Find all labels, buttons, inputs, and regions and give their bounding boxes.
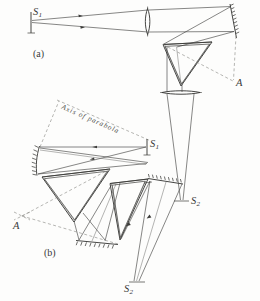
panel-a-source-label: S1 <box>33 7 42 19</box>
panel-b-folding-mirror <box>76 241 118 249</box>
panel-a-focus-label: S2 <box>191 196 200 208</box>
panel-a-camera-lens <box>160 91 202 94</box>
panel-a-converging-cone <box>167 94 194 201</box>
panel-b-focus-label: S2 <box>124 284 133 296</box>
panel-b-converging-beam <box>129 181 182 282</box>
panel-a-plane-mirror <box>230 4 239 38</box>
panel-a-group <box>28 4 240 201</box>
panel-b-parabolic-mirror <box>32 146 40 176</box>
panel-a-dispersing-prism <box>163 42 212 86</box>
panel-a-vertex-label: A <box>236 78 242 89</box>
panel-b-prism-to-camera-mirror-beam <box>121 181 152 239</box>
panel-a-mirror-to-prism-beam <box>163 7 234 48</box>
diagram-canvas: .ray { fill:none; stroke:#3c3c3a; stroke… <box>0 0 260 301</box>
optical-diagram-figure: .ray { fill:none; stroke:#3c3c3a; stroke… <box>0 0 260 301</box>
panel-b-tag: (b) <box>44 248 56 258</box>
panel-a-prism-to-camera-beam <box>167 47 182 92</box>
panel-a-tag: (a) <box>33 49 44 59</box>
panel-a-lens-to-mirror-beam <box>149 7 234 33</box>
panel-b-parabolic-mirror-hatching <box>32 146 39 175</box>
panel-a-collimated-beam <box>32 10 148 32</box>
panel-b-fold-to-second-prism-beam <box>79 183 120 241</box>
panel-b-first-prism <box>42 169 110 222</box>
panel-b-source-label: S1 <box>150 139 159 151</box>
panel-b-vertex-label: A <box>13 221 19 232</box>
